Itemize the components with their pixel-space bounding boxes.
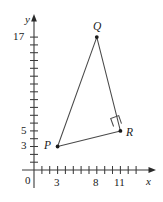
geometry-figure: y x 0 17 5 3 3 8 11 P Q R — [0, 0, 163, 202]
vertex-dot-q — [95, 35, 99, 39]
coordinate-plane — [0, 0, 163, 202]
triangle-pqr — [58, 37, 121, 146]
vertex-dot-r — [119, 129, 123, 133]
right-angle-marker — [111, 116, 122, 127]
x-axis-label: x — [146, 176, 151, 187]
vertex-label-r: R — [126, 127, 133, 139]
vertex-label-q: Q — [93, 21, 101, 33]
vertex-dots — [56, 35, 123, 148]
vertex-dot-p — [56, 145, 60, 149]
origin-label: 0 — [25, 175, 31, 186]
y-tick-label-5: 5 — [21, 125, 27, 136]
y-axis-label: y — [25, 14, 30, 25]
y-tick-label-17: 17 — [13, 31, 24, 42]
vertex-label-p: P — [44, 140, 51, 152]
x-tick-label-8: 8 — [93, 177, 99, 188]
x-tick-label-3: 3 — [54, 177, 60, 188]
y-tick-label-3: 3 — [21, 140, 27, 151]
x-tick-label-11: 11 — [114, 177, 125, 188]
